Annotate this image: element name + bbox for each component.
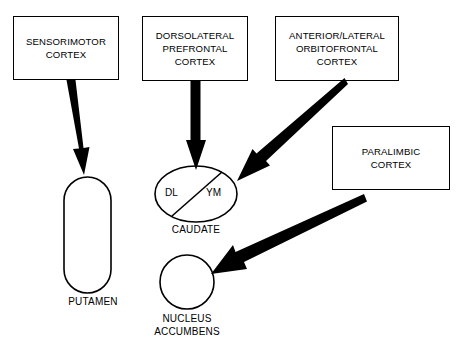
label-nucleus-accumbens: NUCLEUS ACCUMBENS — [127, 313, 247, 338]
shape-putamen[interactable] — [64, 177, 111, 293]
shape-nucleus-accumbens[interactable] — [160, 255, 214, 309]
arrow-dorsolateral-prefrontal-to-caudate — [186, 81, 206, 170]
label-caudate: CAUDATE — [146, 224, 246, 237]
arrow-orbitofrontal-to-caudate — [237, 78, 348, 181]
arrow-sensorimotor-to-putamen — [67, 80, 90, 175]
caudate-sector-ym-label: YM — [206, 187, 221, 199]
caudate-sector-dl-label: DL — [165, 187, 178, 199]
label-putamen: PUTAMEN — [33, 296, 153, 309]
diagram-canvas: SENSORIMOTOR CORTEX DORSOLATERAL PREFRON… — [0, 0, 456, 350]
